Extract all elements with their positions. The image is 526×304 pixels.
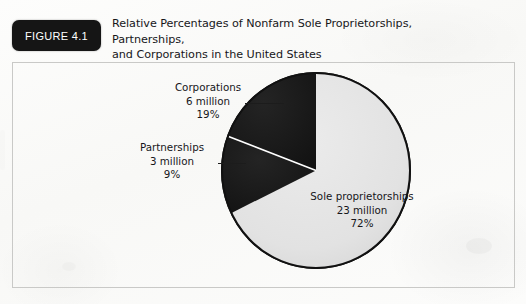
label-partnerships-amount: 3 million xyxy=(122,155,222,169)
label-partnerships-percent: 9% xyxy=(122,168,222,182)
figure-number-label: FIGURE 4.1 xyxy=(25,30,88,42)
label-partnerships-name: Partnerships xyxy=(122,141,222,155)
figure-number-badge: FIGURE 4.1 xyxy=(12,20,101,51)
label-corporations-amount: 6 million xyxy=(154,95,262,109)
label-sole-proprietorships-name: Sole proprietorships xyxy=(292,190,432,204)
leader-line-partnerships xyxy=(218,163,246,164)
figure-page: FIGURE 4.1 Relative Percentages of Nonfa… xyxy=(0,0,526,304)
figure-title-line-2: and Corporations in the United States xyxy=(112,47,452,63)
label-sole-proprietorships-amount: 23 million xyxy=(292,204,432,218)
figure-title: Relative Percentages of Nonfarm Sole Pro… xyxy=(112,16,452,63)
label-corporations: Corporations 6 million 19% xyxy=(154,81,262,122)
label-corporations-name: Corporations xyxy=(154,81,262,95)
label-corporations-percent: 19% xyxy=(154,108,262,122)
label-partnerships: Partnerships 3 million 9% xyxy=(122,141,222,182)
label-sole-proprietorships-percent: 72% xyxy=(292,217,432,231)
figure-title-line-1: Relative Percentages of Nonfarm Sole Pro… xyxy=(112,16,452,47)
scan-artifact xyxy=(0,130,5,170)
label-sole-proprietorships: Sole proprietorships 23 million 72% xyxy=(292,190,432,231)
